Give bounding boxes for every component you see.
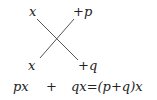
equation-term-px: px bbox=[13, 80, 29, 93]
top-right-term: +p bbox=[73, 5, 92, 18]
bottom-right-term: +q bbox=[78, 59, 97, 72]
equation-plus: + bbox=[46, 80, 57, 93]
top-left-term: x bbox=[29, 5, 36, 18]
equation-result: qx=(p+q)x bbox=[71, 80, 143, 93]
bottom-left-term: x bbox=[28, 59, 35, 72]
diagonal-line-up bbox=[40, 19, 74, 58]
